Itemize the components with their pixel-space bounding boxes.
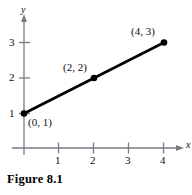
point-annotation-2-2: (2, 2): [63, 62, 87, 73]
figure-container: y x 1 2 3 4 1 2 3 (0, 1) (2, 2) (4, 3) F…: [0, 0, 192, 195]
y-tick-label-3: 3: [9, 37, 15, 48]
data-point-marker: [161, 39, 168, 46]
figure-caption: Figure 8.1: [7, 172, 63, 187]
x-axis-arrow-icon: [176, 145, 184, 151]
y-axis-label: y: [21, 5, 25, 15]
data-point-marker: [91, 75, 98, 82]
data-point-marker: [21, 110, 28, 117]
y-tick-label-1: 1: [9, 108, 15, 119]
y-axis-arrow-icon: [21, 14, 27, 22]
y-tick-label-2: 2: [9, 72, 15, 83]
x-tick-label-2: 2: [90, 155, 96, 166]
x-tick-label-1: 1: [55, 155, 61, 166]
x-axis-label: x: [186, 140, 190, 150]
point-annotation-4-3: (4, 3): [131, 26, 155, 37]
x-tick-label-4: 4: [160, 155, 166, 166]
point-annotation-0-1: (0, 1): [28, 117, 52, 128]
x-tick-label-3: 3: [125, 155, 131, 166]
